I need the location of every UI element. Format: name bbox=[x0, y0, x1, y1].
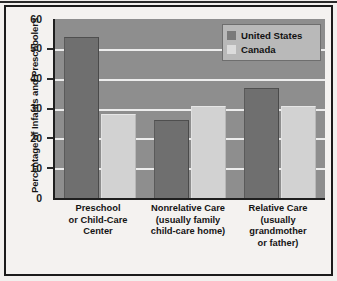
y-tick-label: 10 bbox=[14, 163, 42, 174]
y-tick-label: 50 bbox=[14, 43, 42, 54]
x-category-label-1: Preschoolor Child-CareCenter bbox=[53, 203, 143, 238]
top-rule bbox=[0, 1, 337, 3]
x-category-label-3: Relative Care(usuallygrandmotheror fathe… bbox=[233, 203, 323, 249]
x-category-label-2: Nonrelative Care(usually familychild-car… bbox=[143, 203, 233, 238]
y-tick-label: 0 bbox=[14, 193, 42, 204]
bar-ca-group-2 bbox=[191, 106, 226, 198]
x-category-line: Nonrelative Care bbox=[143, 203, 233, 215]
x-category-line: (usually family bbox=[143, 215, 233, 227]
x-category-line: or Child-Care bbox=[53, 215, 143, 227]
x-category-line: Center bbox=[53, 226, 143, 238]
legend-item: Canada bbox=[227, 42, 316, 56]
x-category-line: or father) bbox=[233, 238, 323, 250]
y-tick-label: 40 bbox=[14, 73, 42, 84]
bar-ca-group-3 bbox=[281, 106, 316, 198]
bar-us-group-1 bbox=[64, 37, 99, 198]
y-tick-label: 30 bbox=[14, 103, 42, 114]
x-category-line: Preschool bbox=[53, 203, 143, 215]
bar-ca-group-1 bbox=[101, 114, 136, 198]
y-tick-label: 60 bbox=[14, 14, 42, 25]
legend-swatch-canada bbox=[227, 45, 236, 54]
x-category-line: grandmother bbox=[233, 226, 323, 238]
legend-swatch-united-states bbox=[227, 31, 236, 40]
legend-label-united-states: United States bbox=[241, 30, 302, 41]
y-tick-label: 20 bbox=[14, 133, 42, 144]
chart-legend: United States Canada bbox=[222, 24, 321, 61]
x-category-line: child-care home) bbox=[143, 226, 233, 238]
x-category-line: (usually bbox=[233, 215, 323, 227]
bar-us-group-2 bbox=[154, 120, 189, 198]
chart-figure: Percentage of Infants and Preschoolers 0… bbox=[0, 0, 337, 281]
bar-us-group-3 bbox=[244, 88, 279, 198]
legend-label-canada: Canada bbox=[241, 44, 276, 55]
x-category-line: Relative Care bbox=[233, 203, 323, 215]
legend-item: United States bbox=[227, 28, 316, 42]
x-axis-line bbox=[53, 198, 325, 200]
